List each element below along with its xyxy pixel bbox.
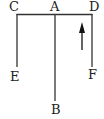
diagram-canvas: C A D E F B <box>0 0 104 119</box>
label-f: F <box>88 67 97 82</box>
label-b: B <box>51 102 61 117</box>
label-a: A <box>49 0 60 14</box>
label-d: D <box>89 0 99 14</box>
arrow-up-icon <box>79 22 85 50</box>
label-c: C <box>9 0 19 14</box>
label-e: E <box>10 69 20 84</box>
